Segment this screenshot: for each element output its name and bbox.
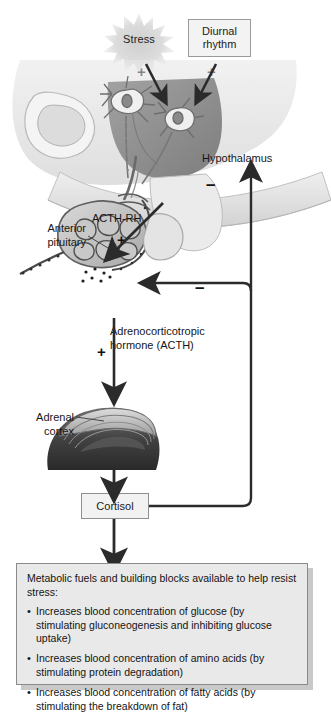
bullet-icon: •	[27, 685, 31, 700]
bullet-icon: •	[27, 604, 31, 619]
cortisol-effects-info-box: Metabolic fuels and building blocks avai…	[16, 563, 308, 685]
list-item: • Increases blood concentration of amino…	[27, 652, 297, 680]
bullet-icon: •	[27, 651, 31, 666]
list-item: • Increases blood concentration of gluco…	[27, 605, 297, 647]
list-item-text: Increases blood concentration of amino a…	[36, 652, 264, 678]
list-item-text: Increases blood concentration of glucose…	[36, 605, 272, 645]
list-item-text: Increases blood concentration of fatty a…	[36, 686, 255, 712]
list-item: • Increases blood concentration of fatty…	[27, 686, 297, 714]
info-box-heading: Metabolic fuels and building blocks avai…	[27, 572, 297, 600]
info-box-list: • Increases blood concentration of gluco…	[27, 605, 297, 714]
